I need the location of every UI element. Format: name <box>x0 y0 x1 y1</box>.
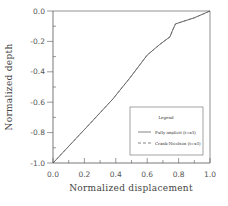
y-axis-title: Normalized depth <box>4 43 14 130</box>
y-tick-label: -0.4 <box>30 67 45 76</box>
y-tick-label: -1.0 <box>30 159 45 168</box>
chart: 0.00.20.40.60.81.00.0-0.2-0.4-0.6-0.8-1.… <box>0 0 228 206</box>
x-tick-label: 0.8 <box>173 170 185 179</box>
x-tick-label: 0.4 <box>110 170 122 179</box>
x-tick-label: 0.0 <box>47 170 59 179</box>
y-tick-label: -0.2 <box>30 37 45 46</box>
y-tick-label: -0.6 <box>30 98 45 107</box>
x-tick-label: 1.0 <box>204 170 216 179</box>
legend-title: Legend <box>158 115 174 120</box>
legend-item-crank-nicolson: Crank-Nicolson (t=x3) <box>155 141 201 146</box>
x-tick-label: 0.6 <box>141 170 153 179</box>
legend-item-fully-implicit: Fully implicit (t=x3) <box>155 130 196 135</box>
y-tick-label: -0.8 <box>30 128 45 137</box>
legend: Legend Fully implicit (t=x3) Crank-Nicol… <box>130 107 203 155</box>
x-tick-label: 0.2 <box>78 170 90 179</box>
y-tick-label: 0.0 <box>33 7 45 16</box>
x-axis-title: Normalized displacement <box>69 183 193 193</box>
